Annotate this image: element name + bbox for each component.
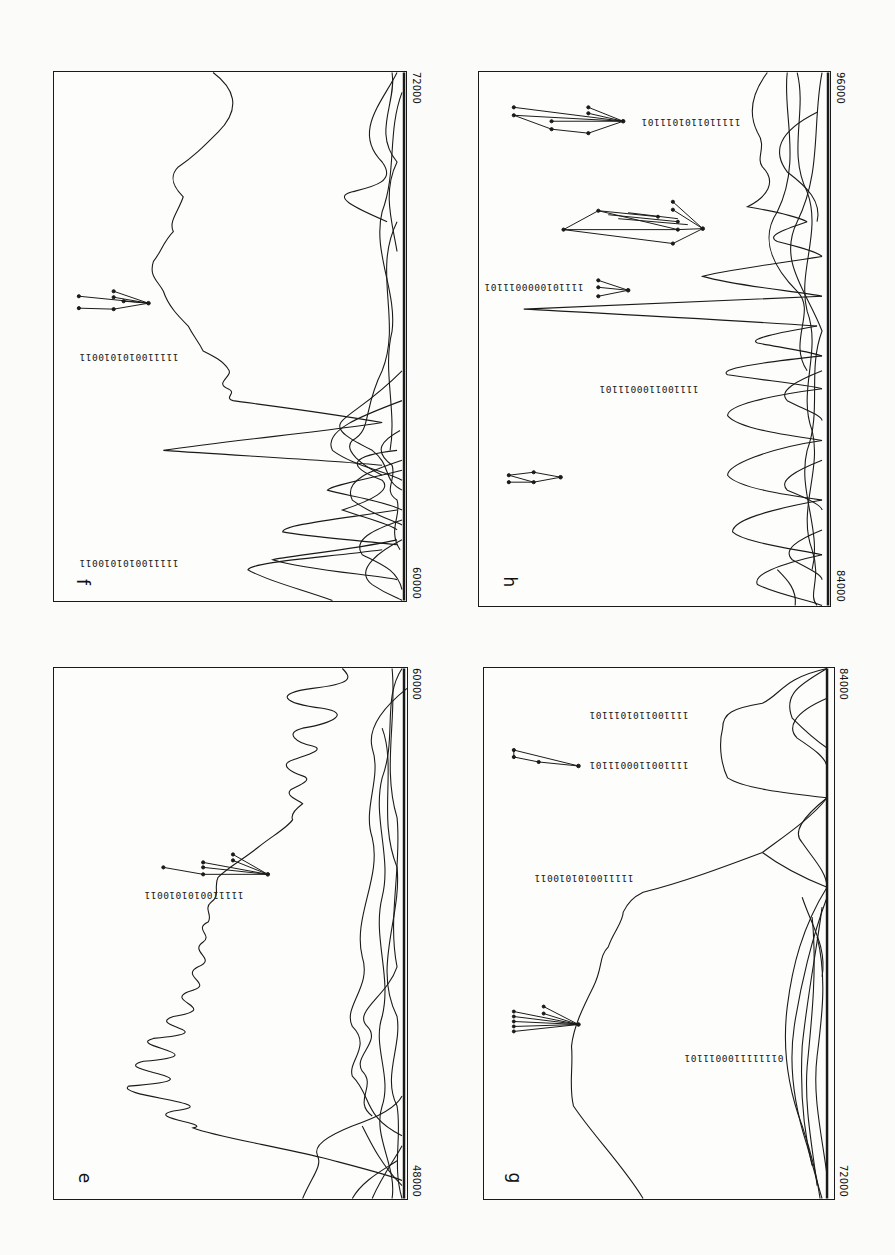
tree-glyph-icon xyxy=(507,471,562,484)
tree-glyph-icon xyxy=(512,106,625,135)
panel-letter: f xyxy=(73,579,93,585)
x-tick-start: 72000 xyxy=(838,1165,849,1197)
panel-h-curves xyxy=(479,72,830,606)
panel-letter: h xyxy=(500,577,520,588)
panel-g: 0111111100011101 1111100101010011 111100… xyxy=(483,667,835,1200)
x-tick-end: 72000 xyxy=(411,72,422,104)
panel-g-curves xyxy=(484,668,834,1199)
panel-letter: g xyxy=(505,1173,525,1184)
tree-glyph-icon xyxy=(77,290,150,311)
sequence-label: 1111001100011101 xyxy=(599,384,699,395)
tree-glyph-icon xyxy=(597,279,630,298)
sequence-label: 0111111100011101 xyxy=(684,1053,784,1064)
sequence-label: 1111010000011101 xyxy=(484,282,584,293)
sequence-label: 1111001101011101 xyxy=(589,710,689,721)
x-tick-start: 60000 xyxy=(411,567,422,599)
panel-f: 1111100101010011 1111100101010011 f 6000… xyxy=(53,71,407,602)
panel-f-curves xyxy=(54,72,406,601)
panel-letter: e xyxy=(75,1173,95,1183)
sequence-label: 1111100101010011 xyxy=(144,890,244,901)
sequence-label: 1111100101010011 xyxy=(79,352,179,363)
x-tick-start: 84000 xyxy=(835,570,846,602)
x-tick-end: 60000 xyxy=(411,668,422,700)
sequence-label: 1111001100011101 xyxy=(589,760,689,771)
panel-e-curves xyxy=(54,668,407,1199)
sequence-label: 1111100101010011 xyxy=(534,873,634,884)
tree-glyph-icon xyxy=(562,200,705,245)
panel-e: 1111100101010011 e 48000 60000 xyxy=(53,667,408,1200)
panel-h: 1111101101011101 1111010000011101 111100… xyxy=(478,71,831,607)
x-tick-start: 48000 xyxy=(411,1165,422,1197)
x-tick-end: 96000 xyxy=(835,72,846,104)
tree-glyph-icon xyxy=(162,853,270,876)
sequence-label: 1111101101011101 xyxy=(641,117,741,128)
sequence-label: 1111100101010011 xyxy=(79,558,179,569)
x-tick-end: 84000 xyxy=(838,668,849,700)
tree-glyph-icon xyxy=(512,1005,580,1033)
tree-glyph-icon xyxy=(512,748,580,767)
